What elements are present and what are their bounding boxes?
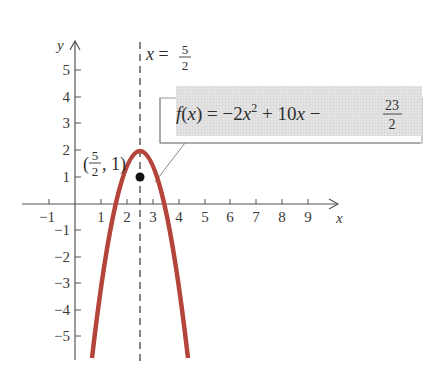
symmetry-label: x = 5 2: [145, 42, 191, 73]
svg-text:4: 4: [63, 89, 71, 105]
svg-text:2: 2: [389, 117, 396, 132]
svg-text:7: 7: [252, 209, 260, 225]
chart-canvas: −1 1 2 3 4 5 6 7 8 9 x 5 4 3 2 1 −1 −2 −…: [0, 0, 424, 377]
svg-text:6: 6: [226, 209, 234, 225]
y-tick-labels: 5 4 3 2 1 −1 −2 −3 −4 −5: [54, 62, 70, 344]
svg-text:2: 2: [123, 209, 131, 225]
svg-text:x =: x =: [145, 44, 169, 64]
svg-text:f(x) = −2x2 + 10x −: f(x) = −2x2 + 10x −: [176, 101, 320, 125]
vertex-point: [136, 173, 145, 182]
svg-text:5: 5: [182, 42, 189, 57]
svg-text:4: 4: [175, 209, 183, 225]
x-axis: [22, 199, 338, 209]
x-ticks: [49, 199, 308, 204]
y-axis-label: y: [55, 37, 64, 53]
svg-text:5: 5: [63, 62, 71, 78]
svg-text:3: 3: [149, 209, 157, 225]
svg-text:−1: −1: [39, 209, 55, 225]
svg-text:8: 8: [278, 209, 286, 225]
svg-text:1: 1: [63, 169, 71, 185]
svg-text:, 1): , 1): [102, 154, 126, 175]
svg-text:−1: −1: [54, 222, 70, 238]
svg-text:3: 3: [63, 115, 71, 131]
svg-text:1: 1: [97, 209, 105, 225]
svg-text:2: 2: [182, 58, 189, 73]
function-callout: [155, 86, 422, 182]
svg-text:5: 5: [201, 209, 209, 225]
svg-text:5: 5: [92, 148, 99, 163]
svg-text:−3: −3: [54, 275, 70, 291]
vertex-label: ( 5 2 , 1): [83, 148, 126, 179]
svg-text:−4: −4: [54, 302, 70, 318]
svg-text:−2: −2: [54, 249, 70, 265]
x-axis-label: x: [335, 210, 343, 226]
x-tick-labels: −1 1 2 3 4 5 6 7 8 9: [39, 209, 312, 225]
svg-text:−5: −5: [54, 328, 70, 344]
svg-text:(: (: [83, 154, 89, 175]
callout-leader-line: [155, 143, 185, 182]
y-ticks: [75, 70, 81, 336]
svg-text:2: 2: [63, 142, 71, 158]
svg-text:9: 9: [304, 209, 312, 225]
y-axis: [70, 41, 80, 360]
svg-text:2: 2: [92, 164, 99, 179]
svg-text:23: 23: [385, 98, 399, 113]
parabola-curve: [92, 151, 188, 358]
